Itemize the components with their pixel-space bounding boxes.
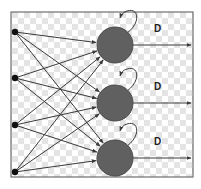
- input-node-x2: [12, 75, 18, 81]
- delay-label-n1: D: [154, 23, 161, 34]
- input-node-x3: [12, 122, 18, 128]
- delay-label-n3: D: [154, 136, 161, 147]
- neuron-n3: [97, 140, 133, 176]
- recurrent-network-diagram: DDD: [0, 0, 201, 189]
- neuron-n2: [97, 85, 133, 121]
- delay-label-n2: D: [154, 81, 161, 92]
- neuron-n1: [97, 27, 133, 63]
- neurons: [97, 27, 133, 176]
- input-node-x4: [12, 169, 18, 175]
- input-node-x1: [12, 29, 18, 35]
